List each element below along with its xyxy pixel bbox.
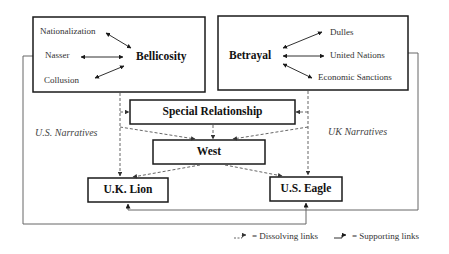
- node-bellicosity: Bellicosity: [136, 51, 186, 63]
- term-united-nations: United Nations: [330, 51, 385, 60]
- term-economic-sanctions: Economic Sanctions: [318, 73, 392, 82]
- label-us-narratives: U.S. Narratives: [35, 128, 98, 138]
- term-collusion: Collusion: [44, 76, 79, 85]
- node-west: West: [153, 146, 265, 158]
- legend-dissolving: = Dissolving links: [252, 232, 318, 241]
- label-uk-narratives: UK Narratives: [328, 127, 387, 137]
- node-us-eagle: U.S. Eagle: [270, 183, 342, 195]
- node-betrayal: Betrayal: [229, 50, 271, 62]
- dissolving-legend-icon: [234, 235, 246, 238]
- term-dulles: Dulles: [330, 28, 354, 37]
- supporting-legend-icon: [334, 235, 346, 238]
- term-nasser: Nasser: [45, 51, 70, 60]
- node-special-relationship: Special Relationship: [130, 106, 295, 118]
- node-uk-lion: U.K. Lion: [88, 184, 168, 196]
- legend-supporting: = Supporting links: [352, 232, 419, 241]
- term-nationalization: Nationalization: [40, 27, 95, 36]
